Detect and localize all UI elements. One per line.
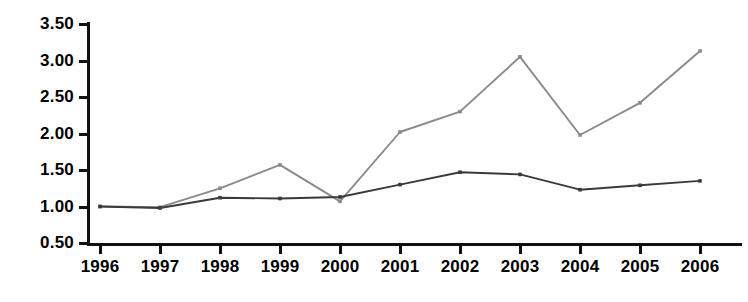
- data-point-marker: [578, 188, 582, 192]
- data-series: [98, 170, 702, 209]
- series-line: [100, 172, 700, 208]
- data-point-marker: [518, 55, 522, 59]
- data-point-marker: [638, 184, 642, 188]
- data-point-marker: [698, 49, 702, 53]
- data-point-marker: [278, 197, 282, 201]
- data-point-marker: [458, 110, 462, 114]
- data-point-marker: [638, 101, 642, 105]
- data-point-marker: [218, 186, 222, 190]
- line-chart: 0.501.001.502.002.503.003.50 19961997199…: [0, 0, 748, 302]
- cropped-caption: [18, 296, 730, 302]
- data-point-marker: [338, 200, 342, 204]
- data-point-marker: [398, 183, 402, 187]
- data-point-marker: [578, 133, 582, 137]
- data-point-marker: [278, 163, 282, 167]
- data-point-marker: [98, 205, 102, 209]
- data-point-marker: [338, 195, 342, 199]
- data-point-marker: [698, 179, 702, 183]
- plot-area: [0, 0, 748, 302]
- data-point-marker: [458, 170, 462, 174]
- data-point-marker: [518, 173, 522, 177]
- data-point-marker: [218, 196, 222, 200]
- data-point-marker: [398, 130, 402, 134]
- data-point-marker: [158, 206, 162, 210]
